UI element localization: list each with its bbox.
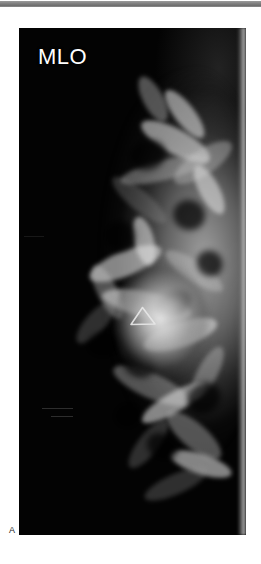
top-divider-rule — [0, 1, 261, 7]
film-artifact — [42, 408, 74, 409]
film-artifact — [24, 236, 44, 237]
skin-line — [237, 28, 246, 535]
figure-panel: MLO A — [0, 0, 261, 564]
film-artifact — [51, 416, 74, 417]
panel-letter: A — [9, 526, 15, 535]
triangular-marker-icon — [128, 305, 157, 327]
view-label: MLO — [38, 46, 87, 68]
mammogram-image: MLO — [19, 28, 246, 535]
